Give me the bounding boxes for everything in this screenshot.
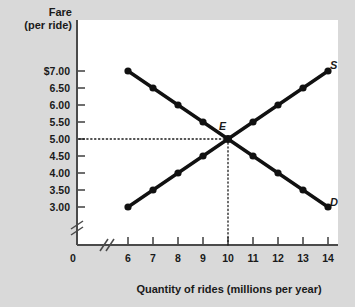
supply-demand-figure: Fare (per ride) Quantity of rides (milli… <box>0 0 355 307</box>
chart-vector-layer <box>0 0 355 307</box>
equilibrium-point-marker <box>224 135 232 143</box>
